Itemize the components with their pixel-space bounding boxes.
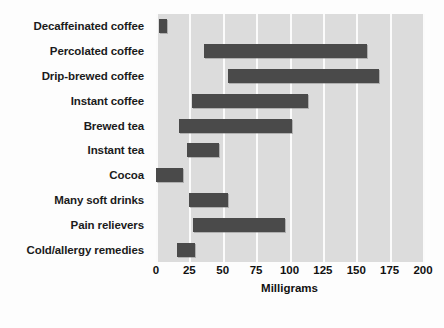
category-axis: Decaffeinated coffeePercolated coffeeDri… (0, 14, 150, 262)
x-tick-label: 175 (380, 264, 399, 276)
category-label: Many soft drinks (0, 188, 150, 213)
category-label: Instant coffee (0, 88, 150, 113)
category-label: Instant tea (0, 138, 150, 163)
bar-row (156, 138, 423, 163)
bar-row (156, 163, 423, 188)
category-label: Percolated coffee (0, 39, 150, 64)
x-tick-label: 200 (413, 264, 432, 276)
bar-row (156, 237, 423, 262)
range-bar (187, 143, 219, 157)
x-tick-label: 150 (347, 264, 366, 276)
category-label: Cold/allergy remedies (0, 237, 150, 262)
bar-row (156, 113, 423, 138)
gridline (423, 14, 425, 262)
category-label: Brewed tea (0, 113, 150, 138)
bar-row (156, 212, 423, 237)
range-bar (192, 94, 308, 108)
range-bar (179, 119, 292, 133)
caffeine-range-chart: Decaffeinated coffeePercolated coffeeDri… (0, 0, 444, 328)
x-tick-label: 0 (153, 264, 159, 276)
plot-area (156, 14, 423, 262)
range-bar (204, 44, 367, 58)
bars-layer (156, 14, 423, 262)
bar-row (156, 64, 423, 89)
bar-row (156, 88, 423, 113)
range-bar (189, 193, 228, 207)
bar-row (156, 14, 423, 39)
category-label: Pain relievers (0, 212, 150, 237)
category-label: Decaffeinated coffee (0, 14, 150, 39)
x-tick-label: 125 (313, 264, 332, 276)
category-label: Drip-brewed coffee (0, 64, 150, 89)
range-bar (193, 218, 285, 232)
x-tick-label: 75 (250, 264, 263, 276)
range-bar (159, 19, 167, 33)
bar-row (156, 39, 423, 64)
category-label: Cocoa (0, 163, 150, 188)
range-bar (228, 69, 379, 83)
x-axis-title: Milligrams (156, 282, 423, 294)
x-tick-label: 100 (280, 264, 299, 276)
x-tick-label: 25 (183, 264, 196, 276)
range-bar (156, 168, 183, 182)
range-bar (177, 243, 194, 257)
bar-row (156, 188, 423, 213)
x-tick-label: 50 (216, 264, 229, 276)
value-axis: 0255075100125150175200 (156, 264, 423, 280)
